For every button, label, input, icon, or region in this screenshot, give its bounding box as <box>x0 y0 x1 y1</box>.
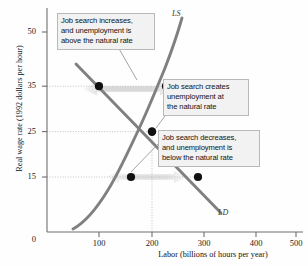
chart-figure: 50 35 25 15 0 100 200 300 400 500 LS LD … <box>0 0 308 266</box>
annotation-surplus-note: Job search increases, and unemployment i… <box>57 13 155 50</box>
curve-label-ld: LD <box>218 208 228 217</box>
marker-ld-wage35 <box>95 82 103 90</box>
marker-equilibrium <box>148 127 157 136</box>
y-tick-label-0: 0 <box>14 234 36 244</box>
y-axis-title: Real wage rate (1992 dollars per hour) <box>15 34 24 184</box>
x-tick-label-100: 100 <box>86 238 112 248</box>
annotation-shortage-note: Job search decreases, and unemployment i… <box>158 130 260 167</box>
marker-ld-wage15 <box>194 173 202 181</box>
annotation-natural-rate-note: Job search creates unemployment at the n… <box>163 79 249 116</box>
x-tick-label-200: 200 <box>139 238 165 248</box>
x-axis-title: Labor (billions of hours per year) <box>120 250 306 259</box>
x-tick-label-300: 300 <box>191 238 217 248</box>
marker-ls-wage15 <box>127 173 135 181</box>
curve-label-ls: LS <box>172 9 180 18</box>
x-tick-label-400: 400 <box>243 238 269 248</box>
x-tick-label-500: 500 <box>283 238 308 248</box>
